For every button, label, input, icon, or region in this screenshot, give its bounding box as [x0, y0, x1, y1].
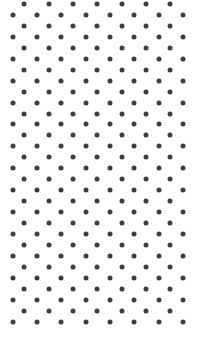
dot	[10, 12, 15, 17]
dot	[59, 166, 64, 171]
dot	[35, 231, 40, 236]
dot	[156, 210, 161, 215]
dot	[108, 319, 113, 324]
dot	[35, 78, 40, 83]
dot	[10, 188, 15, 193]
dot	[181, 166, 186, 171]
dot	[22, 264, 27, 269]
dot	[35, 56, 40, 61]
dot	[83, 319, 88, 324]
dot	[22, 111, 27, 116]
dot	[119, 177, 124, 182]
dot	[168, 2, 173, 7]
dot	[71, 45, 76, 50]
dot	[22, 89, 27, 94]
dot	[22, 2, 27, 7]
dot	[10, 34, 15, 39]
dot	[144, 2, 149, 7]
dot	[168, 221, 173, 226]
dot	[71, 286, 76, 291]
dot	[144, 45, 149, 50]
dot	[132, 12, 137, 17]
dot	[83, 56, 88, 61]
dot	[95, 155, 100, 160]
dot	[144, 242, 149, 247]
dot	[181, 188, 186, 193]
dot	[156, 231, 161, 236]
dot	[132, 297, 137, 302]
dot	[144, 221, 149, 226]
dot	[132, 122, 137, 127]
dot	[108, 231, 113, 236]
dot	[108, 56, 113, 61]
dot	[132, 210, 137, 215]
dot	[144, 286, 149, 291]
dot	[35, 144, 40, 149]
dot	[119, 133, 124, 138]
dot	[10, 297, 15, 302]
dot	[144, 67, 149, 72]
dot	[35, 275, 40, 280]
dot	[46, 177, 51, 182]
dot	[95, 242, 100, 247]
dot	[35, 297, 40, 302]
dot	[168, 177, 173, 182]
dot	[181, 122, 186, 127]
dot	[119, 67, 124, 72]
dot	[132, 34, 137, 39]
dot	[83, 34, 88, 39]
dot	[59, 34, 64, 39]
dot	[156, 144, 161, 149]
dot	[59, 188, 64, 193]
dot	[59, 144, 64, 149]
dot	[156, 253, 161, 258]
dot	[108, 166, 113, 171]
dot	[95, 308, 100, 313]
dot	[108, 275, 113, 280]
dot	[71, 23, 76, 28]
dot	[156, 78, 161, 83]
dot	[59, 319, 64, 324]
dot	[46, 89, 51, 94]
dot	[46, 308, 51, 313]
dot	[108, 188, 113, 193]
dot	[83, 297, 88, 302]
dot	[168, 155, 173, 160]
dot	[168, 286, 173, 291]
dot	[108, 144, 113, 149]
dot	[95, 133, 100, 138]
dot	[95, 89, 100, 94]
dot	[22, 67, 27, 72]
dot	[156, 122, 161, 127]
dot	[132, 100, 137, 105]
dot	[46, 264, 51, 269]
dot	[156, 275, 161, 280]
dot	[59, 210, 64, 215]
dot	[10, 166, 15, 171]
dot	[108, 12, 113, 17]
dot	[83, 12, 88, 17]
dot	[71, 242, 76, 247]
dot	[156, 166, 161, 171]
dot	[83, 144, 88, 149]
dot	[132, 144, 137, 149]
dot	[83, 188, 88, 193]
dot	[46, 2, 51, 7]
dot	[10, 275, 15, 280]
dot	[144, 111, 149, 116]
dot	[168, 45, 173, 50]
dot	[71, 199, 76, 204]
dot	[22, 286, 27, 291]
dot	[119, 111, 124, 116]
dot	[144, 89, 149, 94]
dot	[108, 78, 113, 83]
dot	[144, 264, 149, 269]
dot	[132, 231, 137, 236]
dot	[59, 297, 64, 302]
dot	[168, 67, 173, 72]
dot	[168, 308, 173, 313]
dot	[35, 210, 40, 215]
dot	[71, 89, 76, 94]
dot	[132, 253, 137, 258]
dot	[83, 210, 88, 215]
